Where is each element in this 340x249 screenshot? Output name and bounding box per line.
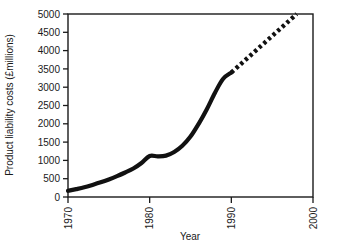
y-tick-label: 2000 [38,118,61,129]
y-axis-title: Product liability costs (£millions) [4,34,15,176]
series-line-actual [68,73,231,191]
x-axis-title: Year [180,231,201,242]
x-tick-label: 1980 [144,207,155,230]
data-series-group [68,14,297,191]
x-tick-label: 1990 [226,207,237,230]
y-tick-label: 5000 [38,9,61,20]
y-tick-label: 2500 [38,100,61,111]
y-tick-label: 3000 [38,82,61,93]
x-tick-label: 2000 [308,207,319,230]
y-tick-label: 1500 [38,137,61,148]
series-line-projected [231,14,296,73]
y-tick-label: 0 [54,192,60,203]
y-tick-label: 4000 [38,45,61,56]
y-tick-label: 3500 [38,64,61,75]
x-tick-label: 1970 [63,207,74,230]
plot-frame [68,14,313,197]
y-axis: 0500100015002000250030003500400045005000 [38,9,68,203]
line-chart: 0500100015002000250030003500400045005000… [0,0,340,249]
y-tick-label: 1000 [38,155,61,166]
y-tick-label: 500 [43,173,60,184]
chart-container: 0500100015002000250030003500400045005000… [0,0,340,249]
x-axis: 1970198019902000 [63,197,319,229]
y-tick-label: 4500 [38,27,61,38]
